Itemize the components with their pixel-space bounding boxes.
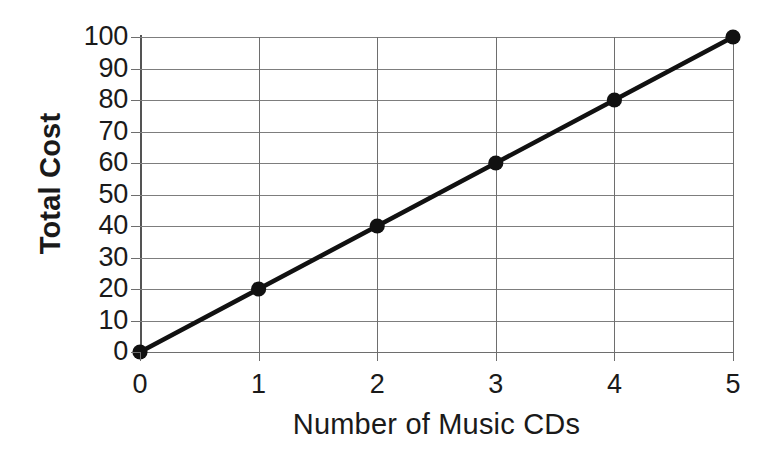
x-axis-tick <box>733 352 734 361</box>
y-axis-tick-label: 0 <box>8 338 128 365</box>
gridline-vertical <box>259 37 260 352</box>
x-axis-tick-label: 2 <box>347 371 407 398</box>
y-axis-tick-label: 20 <box>8 275 128 302</box>
gridline-horizontal <box>140 37 733 38</box>
y-axis-tick <box>131 132 140 133</box>
gridline-horizontal <box>140 163 733 164</box>
y-axis-tick-label: 60 <box>8 149 128 176</box>
gridline-horizontal <box>140 195 733 196</box>
gridline-horizontal <box>140 132 733 133</box>
gridline-vertical <box>614 37 615 352</box>
gridline-vertical <box>377 37 378 352</box>
x-axis-tick-label: 4 <box>584 371 644 398</box>
x-axis-tick <box>496 352 497 361</box>
y-axis-tick <box>131 289 140 290</box>
y-axis-tick-label: 40 <box>8 212 128 239</box>
y-axis-tick <box>131 69 140 70</box>
y-axis-tick <box>131 321 140 322</box>
y-axis-tick-label: 50 <box>8 181 128 208</box>
chart-figure: Total Cost 0102030405060708090100 012345… <box>0 0 774 456</box>
gridline-horizontal <box>140 258 733 259</box>
gridline-horizontal <box>140 100 733 101</box>
gridline-vertical <box>733 37 734 352</box>
x-axis-tick <box>377 352 378 361</box>
y-axis-tick-label: 30 <box>8 244 128 271</box>
y-axis-tick-label: 10 <box>8 307 128 334</box>
y-axis-tick-label: 70 <box>8 118 128 145</box>
y-axis-tick <box>131 37 140 38</box>
gridline-horizontal <box>140 289 733 290</box>
x-axis-tick-label: 3 <box>466 371 526 398</box>
x-axis-tick <box>614 352 615 361</box>
x-axis-tick-label: 1 <box>229 371 289 398</box>
x-axis-tick <box>259 352 260 361</box>
y-axis-tick <box>131 195 140 196</box>
gridline-horizontal <box>140 352 733 353</box>
gridline-horizontal <box>140 69 733 70</box>
gridline-horizontal <box>140 226 733 227</box>
gridline-vertical <box>496 37 497 352</box>
y-axis-tick-label: 80 <box>8 86 128 113</box>
plot-area <box>140 37 733 352</box>
y-axis-tick <box>131 352 140 353</box>
x-axis-tick <box>140 352 141 361</box>
gridline-horizontal <box>140 321 733 322</box>
y-axis-tick-label: 90 <box>8 55 128 82</box>
y-axis-tick <box>131 258 140 259</box>
y-axis-tick-labels: 0102030405060708090100 <box>0 0 128 456</box>
y-axis-tick <box>131 163 140 164</box>
x-axis-tick-label: 0 <box>110 371 170 398</box>
x-axis-title: Number of Music CDs <box>140 408 733 441</box>
y-axis-tick <box>131 100 140 101</box>
y-axis-tick-label: 100 <box>8 23 128 50</box>
y-axis-tick <box>131 226 140 227</box>
x-axis-tick-label: 5 <box>703 371 763 398</box>
